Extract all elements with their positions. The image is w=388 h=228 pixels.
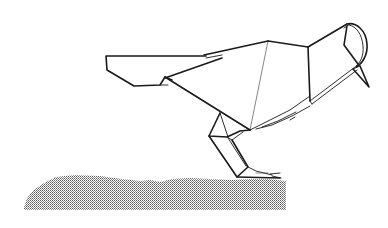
body	[250, 47, 357, 130]
tail	[106, 41, 268, 86]
feet	[237, 167, 281, 178]
beak	[353, 66, 369, 87]
legs	[209, 113, 250, 177]
head	[308, 24, 367, 67]
origami-bird-illustration	[0, 0, 388, 228]
ground-stipple	[24, 175, 286, 210]
